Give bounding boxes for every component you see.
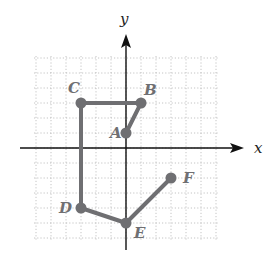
y-axis-label: y: [119, 10, 129, 28]
x-axis: [20, 143, 244, 153]
point-b: [136, 98, 147, 109]
point-label-b: B: [143, 81, 157, 99]
point-c: [76, 98, 87, 109]
point-e: [121, 218, 132, 229]
point-f: [166, 173, 177, 184]
point-label-e: E: [133, 224, 146, 242]
point-d: [76, 203, 87, 214]
point-label-c: C: [68, 79, 80, 97]
point-label-d: D: [58, 199, 72, 217]
point-a: [121, 128, 132, 139]
point-label-f: F: [182, 169, 195, 187]
coordinate-plane: x y ABCDEF: [0, 0, 268, 259]
point-label-a: A: [108, 124, 122, 142]
x-axis-label: x: [254, 139, 263, 157]
